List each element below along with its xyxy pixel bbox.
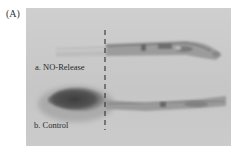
specimen-no-release xyxy=(56,41,222,60)
panel-label: (A) xyxy=(6,8,20,19)
caption-control: b. Control xyxy=(34,120,68,130)
specimen-control xyxy=(38,86,226,122)
specimen-photo: a. NO-Release b. Control xyxy=(26,8,231,146)
caption-no-release: a. NO-Release xyxy=(35,62,85,72)
